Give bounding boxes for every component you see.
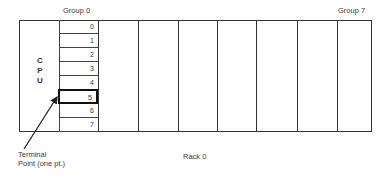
rack-label: Rack 0 <box>183 152 206 161</box>
terminal-point-label-line2: Point (one pt.) <box>18 159 65 168</box>
terminal-point-label-line1: Terminal <box>18 150 46 159</box>
